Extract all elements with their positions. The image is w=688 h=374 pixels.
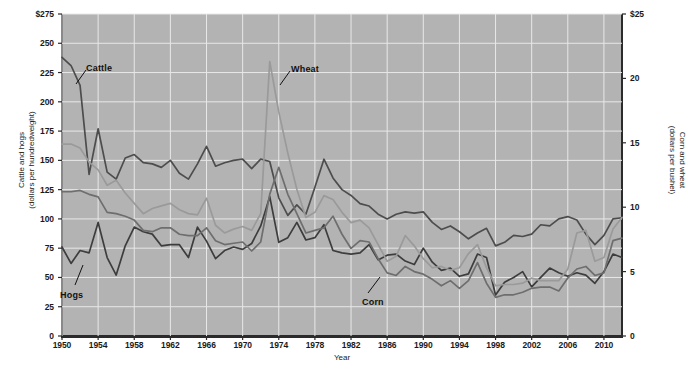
left-axis-tick-label: 250	[0, 38, 54, 48]
right-axis-title-line1: Corn and wheat	[677, 65, 687, 255]
left-axis-tick-label: 25	[0, 302, 54, 312]
right-axis-tick-label: 5	[630, 267, 670, 277]
right-axis-tick-label: $25	[630, 9, 670, 19]
x-axis-title: Year	[312, 353, 372, 362]
leader-line-hogs	[75, 265, 83, 285]
leader-line-wheat	[280, 71, 290, 85]
right-axis-title-line2: (dollars per bushel)	[667, 65, 677, 255]
leader-line-corn	[368, 277, 380, 293]
series-line-cattle	[62, 57, 622, 246]
left-axis-title-line1: Cattle and hogs	[17, 65, 27, 255]
series-lines	[62, 57, 622, 297]
right-axis-tick-label: 10	[630, 202, 670, 212]
right-axis-title: Corn and wheat (dollars per bushel)	[667, 65, 687, 255]
right-axis-tick-label: 0	[630, 331, 670, 341]
left-axis-tick-label: 50	[0, 272, 54, 282]
left-axis-title-line2: (dollars per hundredweight)	[27, 65, 37, 255]
left-axis-tick-label: $275	[0, 9, 54, 19]
chart-canvas	[0, 0, 688, 374]
gridlines	[58, 14, 626, 340]
chart-root: 0255075100125150175200225250$275 0510152…	[0, 0, 688, 374]
series-label-wheat: Wheat	[291, 64, 319, 74]
left-axis-title: Cattle and hogs (dollars per hundredweig…	[17, 65, 37, 255]
series-label-corn: Corn	[362, 297, 384, 307]
series-label-hogs: Hogs	[60, 290, 83, 300]
right-axis-tick-label: 20	[630, 73, 670, 83]
x-axis-tick-label: 2010	[582, 340, 626, 350]
series-label-cattle: Cattle	[86, 63, 112, 73]
right-axis-tick-label: 15	[630, 138, 670, 148]
